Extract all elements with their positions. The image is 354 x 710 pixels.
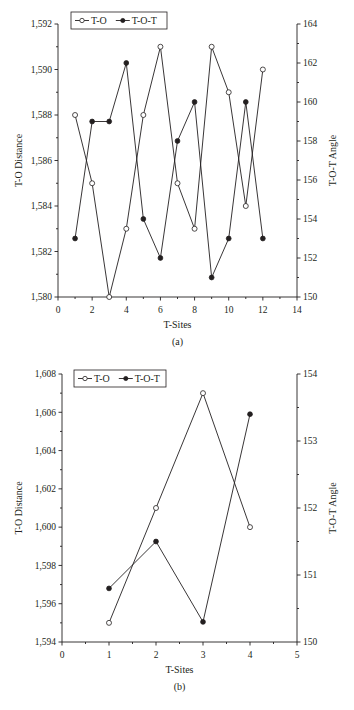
legend-open-circle-icon xyxy=(80,18,84,22)
legend: T-OT-O-T xyxy=(74,370,166,387)
open-circle-marker xyxy=(90,181,95,186)
x-tick-label: 12 xyxy=(258,305,268,315)
open-circle-marker xyxy=(226,90,231,95)
filled-circle-marker xyxy=(248,412,253,417)
y-tick-label-right: 162 xyxy=(303,58,318,68)
figure: 024681012141,5801,5821,5841,5861,5881,59… xyxy=(0,0,354,710)
filled-circle-marker xyxy=(260,236,265,241)
open-circle-marker xyxy=(141,113,146,118)
legend-label: T-O xyxy=(94,373,110,384)
filled-circle-marker xyxy=(141,217,146,222)
x-tick-label: 10 xyxy=(224,305,234,315)
x-tick-label: 6 xyxy=(158,305,163,315)
open-circle-marker xyxy=(158,44,163,49)
y-tick-label-left: 1,580 xyxy=(31,292,53,302)
filled-circle-marker xyxy=(226,236,231,241)
open-circle-marker xyxy=(243,204,248,209)
panel-caption: (a) xyxy=(172,336,183,348)
series-line-t-o-t xyxy=(109,414,250,622)
filled-circle-marker xyxy=(209,275,214,280)
x-axis-title: T-Sites xyxy=(166,664,194,675)
x-tick-label: 2 xyxy=(154,650,159,660)
y-tick-label-right: 150 xyxy=(303,292,318,302)
x-tick-label: 3 xyxy=(201,650,206,660)
y-tick-label-left: 1,600 xyxy=(35,522,57,532)
filled-circle-marker xyxy=(107,119,112,124)
filled-circle-marker xyxy=(90,119,95,124)
open-circle-marker xyxy=(192,226,197,231)
y-tick-label-left: 1,590 xyxy=(31,65,53,75)
y-tick-label-right: 152 xyxy=(303,253,318,263)
filled-circle-marker xyxy=(154,539,159,544)
open-circle-marker xyxy=(175,181,180,186)
legend-filled-circle-icon xyxy=(124,376,128,380)
filled-circle-marker xyxy=(73,236,78,241)
legend-open-circle-icon xyxy=(83,376,87,380)
open-circle-marker xyxy=(107,620,112,625)
y-tick-label-left: 1,588 xyxy=(31,110,53,120)
filled-circle-marker xyxy=(158,256,163,261)
y-tick-label-right: 156 xyxy=(303,175,318,185)
y-tick-label-left: 1,592 xyxy=(31,19,53,29)
open-circle-marker xyxy=(107,295,112,300)
x-axis-title: T-Sites xyxy=(164,319,192,330)
y-tick-label-left: 1,594 xyxy=(35,637,57,647)
open-circle-marker xyxy=(248,525,253,530)
open-circle-marker xyxy=(260,67,265,72)
y-tick-label-left: 1,582 xyxy=(31,247,53,257)
legend-label: T-O xyxy=(91,15,107,26)
y-tick-label-right: 150 xyxy=(303,637,318,647)
legend-filled-circle-icon xyxy=(121,18,125,22)
y-tick-label-left: 1,608 xyxy=(35,369,57,379)
open-circle-marker xyxy=(154,506,159,511)
x-tick-label: 14 xyxy=(292,305,302,315)
filled-circle-marker xyxy=(192,100,197,105)
y-tick-label-right: 154 xyxy=(303,214,318,224)
y-tick-label-left: 1,604 xyxy=(35,446,57,456)
y-axis-title-right: T-O-T Angle xyxy=(327,482,338,534)
open-circle-marker xyxy=(209,44,214,49)
filled-circle-marker xyxy=(175,139,180,144)
x-tick-label: 1 xyxy=(107,650,112,660)
x-tick-label: 4 xyxy=(124,305,129,315)
x-tick-label: 5 xyxy=(295,650,300,660)
y-tick-label-right: 164 xyxy=(303,19,318,29)
figure-canvas: 024681012141,5801,5821,5841,5861,5881,59… xyxy=(0,0,354,710)
y-axis-title-left: T-O Distance xyxy=(13,133,24,187)
chart-panel-b: 0123451,5941,5961,5981,6001,6021,6041,60… xyxy=(13,369,338,693)
y-tick-label-right: 154 xyxy=(303,369,318,379)
legend-label: T-O-T xyxy=(132,15,157,26)
open-circle-marker xyxy=(124,226,129,231)
y-tick-label-right: 160 xyxy=(303,97,318,107)
chart-panel-a: 024681012141,5801,5821,5841,5861,5881,59… xyxy=(13,12,338,348)
filled-circle-marker xyxy=(107,586,112,591)
open-circle-marker xyxy=(201,391,206,396)
series-line-t-o-t xyxy=(75,63,263,278)
filled-circle-marker xyxy=(243,100,248,105)
y-axis-title-right: T-O-T Angle xyxy=(327,134,338,186)
open-circle-marker xyxy=(73,113,78,118)
filled-circle-marker xyxy=(124,61,129,66)
panel-caption: (b) xyxy=(174,681,186,693)
x-tick-label: 0 xyxy=(56,305,61,315)
x-tick-label: 2 xyxy=(90,305,95,315)
y-tick-label-left: 1,586 xyxy=(31,156,53,166)
legend-label: T-O-T xyxy=(135,373,160,384)
x-tick-label: 8 xyxy=(192,305,197,315)
y-tick-label-right: 153 xyxy=(303,436,318,446)
y-tick-label-left: 1,602 xyxy=(35,484,57,494)
filled-circle-marker xyxy=(201,620,206,625)
legend: T-OT-O-T xyxy=(71,12,167,29)
x-tick-label: 0 xyxy=(60,650,65,660)
y-axis-title-left: T-O Distance xyxy=(13,481,24,535)
y-tick-label-right: 152 xyxy=(303,503,318,513)
y-tick-label-left: 1,584 xyxy=(31,201,53,211)
x-tick-label: 4 xyxy=(248,650,253,660)
y-tick-label-left: 1,606 xyxy=(35,408,57,418)
y-tick-label-right: 151 xyxy=(303,570,318,580)
y-tick-label-right: 158 xyxy=(303,136,318,146)
series-line-t-o xyxy=(75,47,263,297)
y-tick-label-left: 1,596 xyxy=(35,599,57,609)
y-tick-label-left: 1,598 xyxy=(35,561,57,571)
